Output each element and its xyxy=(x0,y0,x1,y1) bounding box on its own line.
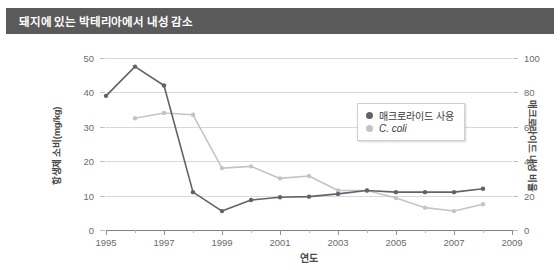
data-point xyxy=(278,195,282,199)
x-axis-tick xyxy=(164,230,165,235)
data-point xyxy=(162,83,166,87)
y-axis-left-tick-label: 40 xyxy=(83,87,94,98)
data-point xyxy=(104,94,108,98)
y-axis-right-tick-label: 40 xyxy=(524,156,535,167)
data-point xyxy=(191,190,195,194)
data-point xyxy=(220,166,224,170)
x-axis-tick xyxy=(512,230,513,235)
data-point xyxy=(249,164,253,168)
legend-item-macrolide: 매크로라이드 사용 xyxy=(366,109,454,122)
data-point xyxy=(162,111,166,115)
y-axis-right-tick xyxy=(513,230,518,231)
y-axis-right-tick xyxy=(513,58,518,59)
y-axis-left-tick-label: 20 xyxy=(83,156,94,167)
y-axis-left-tick-label: 50 xyxy=(83,53,94,64)
data-point xyxy=(481,187,485,191)
y-axis-right-tick-label: 80 xyxy=(524,87,535,98)
data-point xyxy=(481,202,485,206)
y-axis-right-tick-label: 60 xyxy=(524,121,535,132)
legend-marker-light xyxy=(366,125,373,132)
data-point xyxy=(278,176,282,180)
y-axis-left-tick-label: 0 xyxy=(89,225,94,236)
x-axis-tick-label: 2009 xyxy=(501,237,522,248)
x-axis-tick xyxy=(309,230,310,233)
y-axis-left-tick xyxy=(100,230,105,231)
y-axis-left-tick xyxy=(100,92,105,93)
y-axis-right-tick xyxy=(513,161,518,162)
data-point xyxy=(133,64,137,68)
data-point xyxy=(452,209,456,213)
chart-screenshot: 돼지에 있는 박테리아에서 내성 감소 항생제 소비(mg/kg) 매크로라이드… xyxy=(0,0,560,270)
x-axis-tick xyxy=(106,230,107,235)
x-axis-tick xyxy=(280,230,281,235)
y-axis-left-tick-label: 30 xyxy=(83,121,94,132)
data-point xyxy=(394,196,398,200)
x-axis-tick xyxy=(135,230,136,233)
data-point xyxy=(249,198,253,202)
data-point xyxy=(191,113,195,117)
y-axis-right-tick-label: 0 xyxy=(524,225,529,236)
x-axis-tick-label: 1995 xyxy=(95,237,116,248)
x-axis-tick-label: 2003 xyxy=(327,237,348,248)
chart-legend: 매크로라이드 사용 C. coli xyxy=(357,103,465,141)
y-axis-left-tick xyxy=(100,127,105,128)
legend-label-macrolide: 매크로라이드 사용 xyxy=(379,108,454,123)
y-axis-right-tick xyxy=(513,127,518,128)
y-axis-left-tick xyxy=(100,161,105,162)
x-axis-tick xyxy=(454,230,455,235)
data-point xyxy=(365,188,369,192)
y-axis-right-tick-label: 20 xyxy=(524,190,535,201)
y-axis-right-tick xyxy=(513,92,518,93)
legend-item-ccoli: C. coli xyxy=(366,122,454,135)
data-point xyxy=(423,190,427,194)
y-axis-right-tick xyxy=(513,196,518,197)
x-axis-tick xyxy=(396,230,397,235)
data-point xyxy=(307,194,311,198)
data-point xyxy=(336,192,340,196)
x-axis-tick xyxy=(222,230,223,235)
x-axis-tick xyxy=(367,230,368,233)
x-axis-tick-label: 2001 xyxy=(269,237,290,248)
chart-title-bar: 돼지에 있는 박테리아에서 내성 감소 xyxy=(6,8,554,34)
x-axis-tick-label: 2005 xyxy=(385,237,406,248)
data-point xyxy=(220,209,224,213)
x-axis-tick-label: 1999 xyxy=(211,237,232,248)
data-point xyxy=(423,205,427,209)
y-axis-left-tick-label: 10 xyxy=(83,190,94,201)
y-axis-left-tick xyxy=(100,196,105,197)
legend-marker-dark xyxy=(366,112,373,119)
x-axis-tick xyxy=(425,230,426,233)
y-axis-left-tick xyxy=(100,58,105,59)
x-axis-tick xyxy=(251,230,252,233)
x-axis-tick-label: 1997 xyxy=(153,237,174,248)
data-point xyxy=(307,174,311,178)
legend-label-ccoli: C. coli xyxy=(379,123,407,134)
page-title: 돼지에 있는 박테리아에서 내성 감소 xyxy=(6,13,193,29)
chart-canvas: 항생제 소비(mg/kg) 매크로라이드 내성 비율 연도 매크로라이드 사용 … xyxy=(0,34,560,270)
x-axis-tick xyxy=(193,230,194,233)
y-axis-right-tick-label: 100 xyxy=(524,53,540,64)
x-axis-tick-label: 2007 xyxy=(443,237,464,248)
data-point xyxy=(133,116,137,120)
x-axis-tick xyxy=(338,230,339,235)
x-axis-tick xyxy=(483,230,484,233)
data-point xyxy=(452,190,456,194)
data-point xyxy=(394,190,398,194)
